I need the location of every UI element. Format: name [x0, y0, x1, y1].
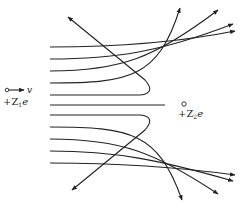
trajectory-plot: [0, 0, 245, 210]
projectile-charge-label: +Z1e: [3, 97, 28, 108]
target-charge-suffix: e: [197, 108, 203, 119]
projectile-charge-main: +Z: [3, 96, 18, 107]
trajectory-bottom-1: [50, 163, 235, 175]
nucleus-icon: [182, 102, 186, 106]
velocity-label: v: [27, 86, 32, 95]
trajectory-top-2: [50, 24, 233, 59]
projectile-charge-suffix: e: [22, 96, 28, 107]
target-charge-main: +Z: [178, 108, 193, 119]
trajectory-top-3: [50, 10, 218, 71]
projectile-icon: [5, 88, 24, 92]
trajectory-bottom-3: [50, 139, 218, 194]
target-charge-label: +Z2e: [178, 109, 203, 120]
trajectory-bottom-5: [50, 115, 150, 190]
